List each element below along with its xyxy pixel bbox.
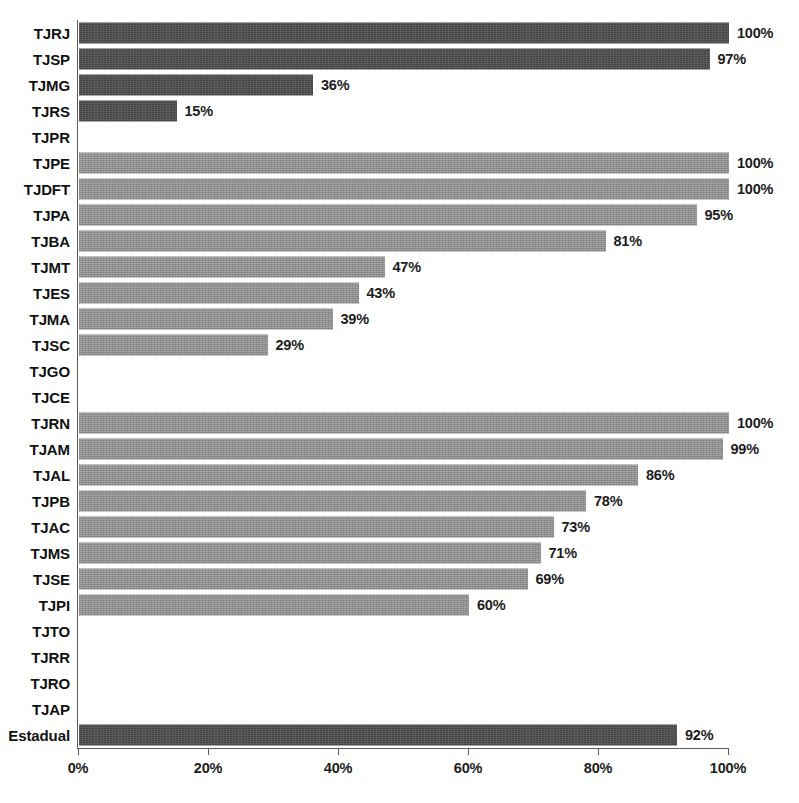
bar-value-label: 73% <box>562 519 590 535</box>
bar <box>79 257 385 278</box>
bar-value-label: 29% <box>276 337 304 353</box>
bar-row: TJAP <box>0 696 799 722</box>
bar-row-label: TJPA <box>33 207 70 224</box>
bar-row-label: Estadual <box>8 727 70 744</box>
bar-value-label: 15% <box>185 103 213 119</box>
bar-value-label: 47% <box>393 259 421 275</box>
bar-row-label: TJAM <box>30 441 70 458</box>
bar-row-label: TJPB <box>32 493 70 510</box>
x-axis-tick-label: 80% <box>584 760 612 776</box>
bar-row: TJPI60% <box>0 592 799 618</box>
bar-row: TJAL86% <box>0 462 799 488</box>
bar-value-label: 100% <box>737 181 773 197</box>
bar-row-label: TJSC <box>32 337 70 354</box>
bar-row: TJPB78% <box>0 488 799 514</box>
x-axis-tick-label: 40% <box>324 760 352 776</box>
x-axis-tick-label: 20% <box>194 760 222 776</box>
bar <box>79 23 729 44</box>
bar-value-label: 60% <box>477 597 505 613</box>
bar-value-label: 86% <box>646 467 674 483</box>
bar <box>79 283 359 304</box>
x-axis-tick-label: 0% <box>68 760 89 776</box>
bar-row: TJSE69% <box>0 566 799 592</box>
x-axis-tick <box>78 748 79 755</box>
bar-value-label: 92% <box>685 727 713 743</box>
bar-row: TJRR <box>0 644 799 670</box>
bar-row: TJTO <box>0 618 799 644</box>
bar <box>79 491 586 512</box>
bar-value-label: 71% <box>549 545 577 561</box>
bar <box>79 335 268 356</box>
bar-row: TJRJ100% <box>0 20 799 46</box>
x-axis-tick-label: 60% <box>454 760 482 776</box>
bar-row: TJDFT100% <box>0 176 799 202</box>
bar-value-label: 95% <box>705 207 733 223</box>
bar-row: TJPR <box>0 124 799 150</box>
bar-value-label: 100% <box>737 415 773 431</box>
bar <box>79 75 313 96</box>
bar-row-label: TJSP <box>33 51 70 68</box>
bar-row-label: TJPI <box>39 597 70 614</box>
x-axis-tick <box>208 748 209 755</box>
bar <box>79 465 638 486</box>
x-axis-tick <box>468 748 469 755</box>
bar <box>79 517 554 538</box>
bar-value-label: 81% <box>614 233 642 249</box>
x-axis-tick <box>338 748 339 755</box>
bar-row: TJSP97% <box>0 46 799 72</box>
bar-row: TJPA95% <box>0 202 799 228</box>
bar-row-label: TJPR <box>32 129 70 146</box>
bar-row-label: TJPE <box>33 155 70 172</box>
bar-value-label: 97% <box>718 51 746 67</box>
bar <box>79 569 528 590</box>
bar <box>79 231 606 252</box>
bar-value-label: 36% <box>321 77 349 93</box>
bar-row-label: TJMA <box>30 311 70 328</box>
bar-value-label: 43% <box>367 285 395 301</box>
bar-row: TJCE <box>0 384 799 410</box>
bar-row-label: TJAL <box>33 467 70 484</box>
bar-row-label: TJMS <box>30 545 70 562</box>
bar-value-label: 39% <box>341 311 369 327</box>
x-axis-tick <box>598 748 599 755</box>
bar-row-label: TJMG <box>29 77 70 94</box>
bar <box>79 439 723 460</box>
bar-row: TJBA81% <box>0 228 799 254</box>
bar-row-label: TJRO <box>30 675 70 692</box>
bar <box>79 543 541 564</box>
bar-row: TJAM99% <box>0 436 799 462</box>
bar-value-label: 99% <box>731 441 759 457</box>
x-axis-line <box>77 748 729 749</box>
bar-row: TJAC73% <box>0 514 799 540</box>
bar <box>79 309 333 330</box>
bar-row-label: TJAC <box>31 519 70 536</box>
bar-row-label: TJBA <box>31 233 70 250</box>
bar <box>79 205 697 226</box>
bar-row-label: TJAP <box>32 701 70 718</box>
bar-row: TJGO <box>0 358 799 384</box>
x-axis-tick <box>728 748 729 755</box>
bar <box>79 101 177 122</box>
bar-row: TJPE100% <box>0 150 799 176</box>
bar <box>79 49 710 70</box>
bar-row-label: TJRN <box>31 415 70 432</box>
bar-row: TJMT47% <box>0 254 799 280</box>
bar <box>79 179 729 200</box>
bar <box>79 595 469 616</box>
bar-row: TJRN100% <box>0 410 799 436</box>
bar-row: TJRS15% <box>0 98 799 124</box>
bar-row-label: TJGO <box>30 363 70 380</box>
bar-chart: TJRJ100%TJSP97%TJMG36%TJRS15%TJPRTJPE100… <box>0 0 799 803</box>
bar-row-label: TJES <box>33 285 70 302</box>
bar-value-label: 100% <box>737 25 773 41</box>
bar-row: Estadual92% <box>0 722 799 748</box>
bar-row: TJSC29% <box>0 332 799 358</box>
bar-row: TJRO <box>0 670 799 696</box>
bar-row: TJMA39% <box>0 306 799 332</box>
bar-value-label: 78% <box>594 493 622 509</box>
bar <box>79 153 729 174</box>
bar-row-label: TJSE <box>33 571 70 588</box>
bar-row: TJMS71% <box>0 540 799 566</box>
bar-row-label: TJDFT <box>24 181 70 198</box>
bar-value-label: 69% <box>536 571 564 587</box>
